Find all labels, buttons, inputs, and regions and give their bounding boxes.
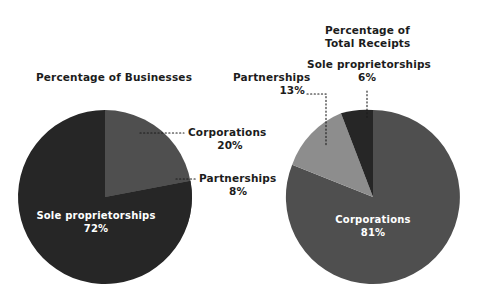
right-chart-title-line2: Total Receipts xyxy=(325,37,410,49)
right-inner-label-text: Corporations xyxy=(335,214,410,225)
left-callout-partnerships-value: 8% xyxy=(199,185,277,198)
left-inner-label-text: Sole proprietorships xyxy=(36,210,155,221)
right-callout-partnerships: Partnerships 13% xyxy=(233,71,305,97)
left-callout-corporations-value: 20% xyxy=(188,139,272,152)
left-chart-title: Percentage of Businesses xyxy=(36,71,192,84)
left-callout-partnerships-label: Partnerships xyxy=(199,172,276,184)
right-callout-partnerships-value: 13% xyxy=(233,84,305,97)
left-inner-label-sole-proprietorships: Sole proprietorships 72% xyxy=(16,209,176,235)
left-inner-label-value: 72% xyxy=(16,222,176,235)
right-callout-sole-proprietorships-label: Sole proprietorships xyxy=(307,58,431,70)
right-callout-sole-proprietorships-value: 6% xyxy=(307,71,427,84)
right-chart-title: Percentage of Total Receipts xyxy=(325,24,465,50)
left-callout-partnerships: Partnerships 8% xyxy=(199,172,277,198)
right-callout-partnerships-label: Partnerships xyxy=(233,71,310,83)
left-callout-corporations: Corporations 20% xyxy=(188,126,272,152)
left-callout-corporations-label: Corporations xyxy=(188,126,266,138)
right-inner-label-corporations: Corporations 81% xyxy=(313,213,433,239)
right-chart-title-line1: Percentage of xyxy=(325,24,410,36)
pie-chart-figure: Percentage of Businesses Corporations 20… xyxy=(0,0,482,304)
right-callout-sole-proprietorships: Sole proprietorships 6% xyxy=(307,58,427,84)
right-inner-label-value: 81% xyxy=(313,226,433,239)
